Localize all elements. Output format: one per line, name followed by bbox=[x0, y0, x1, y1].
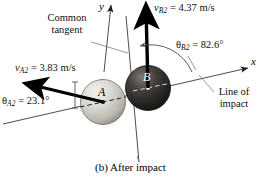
velocity-a-equals: = bbox=[31, 62, 37, 73]
y-axis-label: y bbox=[99, 0, 104, 12]
common-tangent-label-line2: tangent bbox=[36, 24, 98, 36]
angle-a-degree: ° bbox=[45, 95, 49, 106]
line-of-impact-label-line1: Line of bbox=[208, 86, 260, 98]
velocity-a-value: 3.83 bbox=[39, 62, 57, 73]
angle-b-equals: = bbox=[192, 39, 198, 50]
velocity-a-subscript: A2 bbox=[20, 66, 29, 75]
velocity-b-label: vB2 = 4.37 m/s bbox=[154, 2, 215, 15]
velocity-b-equals: = bbox=[170, 2, 176, 13]
velocity-b-units: m/s bbox=[199, 2, 214, 13]
figure-caption: (b) After impact bbox=[0, 161, 261, 173]
angle-b-leader bbox=[188, 56, 196, 70]
line-of-impact-label: Line of impact bbox=[208, 86, 260, 110]
y-axis bbox=[104, 5, 111, 72]
angle-b-label: θB2 = 82.6° bbox=[176, 39, 223, 52]
angle-a-subscript: A2 bbox=[7, 99, 16, 108]
sphere-b-letter: B bbox=[143, 70, 150, 85]
angle-a-value: 23.1 bbox=[27, 95, 45, 106]
after-impact-diagram: y x Common tangent Line of impact vA2 = … bbox=[0, 0, 261, 178]
common-tangent-leader bbox=[91, 42, 128, 53]
velocity-b-subscript: B2 bbox=[159, 6, 168, 15]
x-axis-label: x bbox=[251, 55, 256, 67]
velocity-a-units: m/s bbox=[60, 62, 75, 73]
angle-a-equals: = bbox=[18, 95, 24, 106]
common-tangent-label: Common tangent bbox=[36, 12, 98, 36]
velocity-a-label: vA2 = 3.83 m/s bbox=[15, 62, 76, 75]
velocity-b-value: 4.37 bbox=[178, 2, 196, 13]
angle-a-label: θA2 = 23.1° bbox=[2, 95, 49, 108]
angle-b-degree: ° bbox=[219, 39, 223, 50]
common-tangent-label-line1: Common bbox=[36, 12, 98, 24]
angle-b-value: 82.6 bbox=[201, 39, 219, 50]
line-of-impact-label-line2: impact bbox=[208, 98, 260, 110]
sphere-a-letter: A bbox=[98, 85, 105, 100]
angle-b-subscript: B2 bbox=[181, 43, 190, 52]
